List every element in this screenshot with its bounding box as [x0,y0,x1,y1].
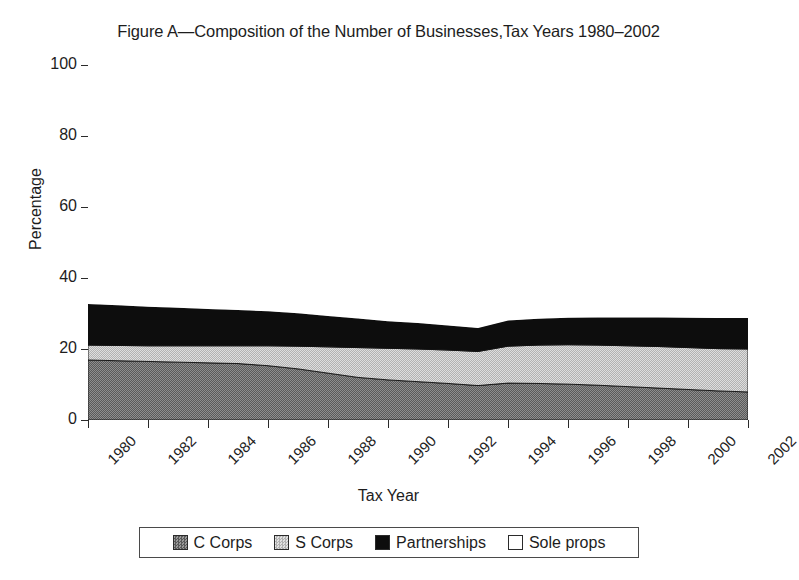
legend-item-c-corps[interactable]: C Corps [173,534,253,552]
x-tick-mark [568,420,569,428]
legend-label: S Corps [295,534,353,552]
x-tick-label: 1994 [524,432,560,468]
legend-item-partnerships[interactable]: Partnerships [375,534,486,552]
x-tick-label: 1984 [224,432,260,468]
legend-item-sole-props[interactable]: Sole props [508,534,606,552]
y-tick-label: 100 [31,56,77,72]
y-tick-label: 0 [31,411,77,427]
x-tick-mark [748,420,749,428]
stacked-area-plot [88,65,748,420]
x-tick-label: 1990 [404,432,440,468]
x-tick-label: 1986 [284,432,320,468]
legend-swatch-icon [173,535,188,550]
y-tick-label: 40 [31,269,77,285]
legend-label: C Corps [194,534,253,552]
x-tick-label: 1992 [464,432,500,468]
x-tick-mark [148,420,149,428]
x-tick-label: 2000 [704,432,740,468]
y-tick-label: 60 [31,198,77,214]
y-tick-mark [81,420,88,421]
legend-label: Sole props [529,534,606,552]
chart-legend: C CorpsS CorpsPartnershipsSole props [139,527,639,558]
x-tick-mark [688,420,689,428]
legend-swatch-icon [274,535,289,550]
y-tick-mark [81,278,88,279]
x-tick-mark [208,420,209,428]
x-tick-label: 1982 [164,432,200,468]
x-tick-mark [448,420,449,428]
x-tick-mark [628,420,629,428]
x-axis-label: Tax Year [0,487,777,505]
x-tick-label: 2002 [764,432,799,468]
x-tick-label: 1988 [344,432,380,468]
legend-label: Partnerships [396,534,486,552]
y-tick-mark [81,349,88,350]
x-tick-mark [328,420,329,428]
figure-title: Figure A—Composition of the Number of Bu… [0,22,777,41]
legend-swatch-icon [375,535,390,550]
y-tick-mark [81,65,88,66]
y-tick-label: 20 [31,340,77,356]
area-series-sole-props [88,65,748,328]
x-tick-mark [88,420,89,428]
x-tick-mark [508,420,509,428]
y-tick-mark [81,207,88,208]
x-tick-label: 1998 [644,432,680,468]
y-tick-mark [81,136,88,137]
legend-swatch-icon [508,535,523,550]
y-tick-label: 80 [31,127,77,143]
x-tick-label: 1996 [584,432,620,468]
legend-item-s-corps[interactable]: S Corps [274,534,353,552]
x-tick-mark [268,420,269,428]
x-tick-label: 1980 [104,432,140,468]
x-tick-mark [388,420,389,428]
